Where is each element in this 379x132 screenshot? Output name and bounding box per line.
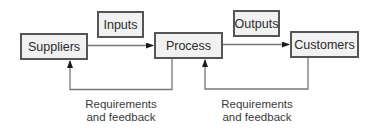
node-process-label: Process [166, 39, 211, 53]
node-suppliers-label: Suppliers [28, 40, 80, 54]
arrow-feedback-process-to-suppliers [70, 58, 172, 90]
inputs-label-box: Inputs [97, 11, 144, 38]
node-suppliers: Suppliers [20, 33, 88, 60]
feedback-label-left: Requirements and feedback [80, 98, 162, 124]
node-customers: Customers [290, 31, 359, 58]
feedback-label-right-line2: and feedback [216, 111, 298, 124]
inputs-label: Inputs [103, 18, 137, 32]
feedback-label-left-line1: Requirements [80, 98, 162, 111]
arrow-feedback-customers-to-process [205, 57, 308, 89]
node-customers-label: Customers [294, 38, 354, 52]
feedback-label-right-line1: Requirements [216, 98, 298, 111]
outputs-label-box: Outputs [233, 10, 280, 37]
outputs-label: Outputs [235, 17, 279, 31]
feedback-label-left-line2: and feedback [80, 111, 162, 124]
feedback-label-right: Requirements and feedback [216, 98, 298, 124]
diagram-connectors [0, 0, 379, 132]
node-process: Process [154, 32, 223, 59]
